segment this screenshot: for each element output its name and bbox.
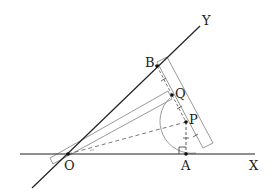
point-o xyxy=(66,152,70,156)
label-p: P xyxy=(189,113,198,126)
diagram-canvas: O A B Q P X Y xyxy=(0,0,273,196)
point-b xyxy=(155,64,159,68)
segment-bq xyxy=(157,66,172,95)
point-p xyxy=(184,120,188,124)
label-q: Q xyxy=(175,87,186,100)
angle-mark-o xyxy=(90,150,94,151)
point-q xyxy=(170,93,174,97)
geometry-figure xyxy=(0,0,273,196)
label-o: O xyxy=(64,159,75,172)
label-b: B xyxy=(145,56,155,69)
ray-oy xyxy=(32,26,200,188)
tick-bq xyxy=(161,78,166,81)
label-a: A xyxy=(181,159,190,172)
label-x: X xyxy=(249,159,258,172)
label-y: Y xyxy=(202,14,211,27)
point-a xyxy=(184,152,188,156)
